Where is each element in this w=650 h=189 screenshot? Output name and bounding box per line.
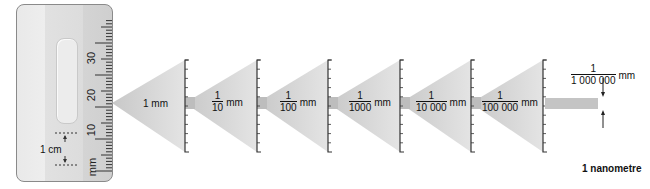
step-label-1mm: 1 mm [143,98,168,109]
numerator: 1 [429,91,435,101]
fraction: 1 10 [212,91,223,113]
unit: mm [300,97,317,108]
numerator: 1 [357,91,363,101]
denominator: 100 000 [482,101,518,113]
fraction: 1 1 000 000 [571,64,616,86]
denominator: 10 [212,101,223,113]
step-label-1-10mm: 1 10 mm [212,91,243,113]
denominator: 100 [280,101,297,113]
unit: mm [450,97,467,108]
fraction: 1 10 000 [416,91,447,113]
numerator: 1 [215,91,221,101]
denominator: 1000 [349,101,371,113]
final-label: 1 1 000 000 mm [571,64,635,86]
step-label-1-10000mm: 1 10 000 mm [416,91,466,113]
step-label-1-100000mm: 1 100 000 mm [482,91,538,113]
unit: mm [619,70,636,81]
unit: mm [374,97,391,108]
fraction: 1 100 [280,91,297,113]
denominator: 10 000 [416,101,447,113]
numerator: 1 [497,91,503,101]
step-text: 1 mm [143,98,168,109]
unit: mm [226,97,243,108]
nanometre-caption: 1 nanometre [582,163,641,174]
nanometre-band [545,98,598,109]
numerator: 1 [590,64,596,74]
magnification-diagram [0,0,650,189]
step-label-1-1000mm: 1 1000 mm [349,91,391,113]
fraction: 1 1000 [349,91,371,113]
fraction: 1 100 000 [482,91,518,113]
step-label-1-100mm: 1 100 mm [280,91,316,113]
denominator: 1 000 000 [571,74,616,86]
numerator: 1 [286,91,292,101]
unit: mm [521,97,538,108]
